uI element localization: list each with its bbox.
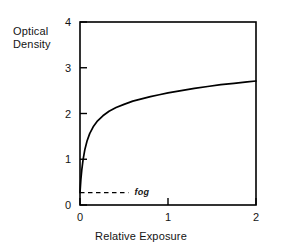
x-tick-label-2: 2: [248, 212, 264, 223]
fog-annotation-label: fog: [135, 188, 150, 197]
y-axis-title-line2: Density: [13, 38, 51, 50]
y-tick-label-2: 2: [55, 109, 71, 120]
y-tick-label-0: 0: [55, 200, 71, 211]
x-tick-label-0: 0: [72, 212, 88, 223]
x-tick-label-1: 1: [160, 212, 176, 223]
y-axis-title-line1: Optical: [13, 25, 48, 37]
y-tick-label-1: 1: [55, 154, 71, 165]
optical-density-chart: OpticalDensity Relative Exposure 4 3 2 1…: [0, 0, 282, 252]
y-tick-label-4: 4: [55, 17, 71, 28]
y-tick-label-3: 3: [55, 63, 71, 74]
x-axis-title: Relative Exposure: [0, 230, 282, 243]
y-axis-title: OpticalDensity: [13, 25, 51, 51]
